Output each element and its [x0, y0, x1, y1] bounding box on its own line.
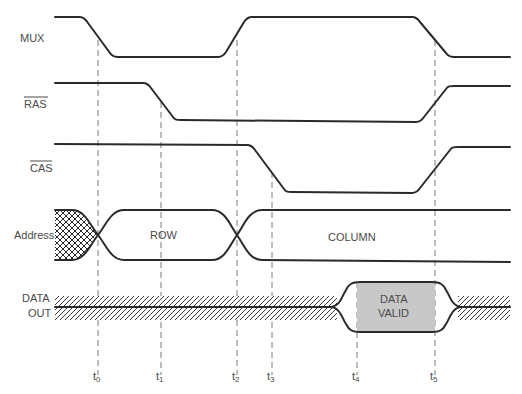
signal-label-mux: MUX: [20, 32, 45, 44]
address-undefined-region: [55, 210, 100, 260]
signal-data-out: DATA OUT DATA VALID: [22, 282, 510, 332]
time-label-t0: t0: [93, 370, 101, 384]
signal-address: Address ROW COLUMN: [14, 210, 510, 262]
waveform-mux: [55, 17, 510, 57]
waveform-ras: [55, 83, 510, 122]
time-label-t3: t3: [267, 370, 275, 384]
signal-label-address: Address: [14, 229, 55, 241]
bus-label-row: ROW: [150, 229, 178, 241]
waveform-address-bottom: [55, 210, 510, 262]
waveform-cas: [55, 144, 510, 193]
waveform-address-top: [55, 210, 510, 260]
data-valid-label-line2: VALID: [378, 307, 409, 319]
time-label-t4: t4: [352, 370, 360, 384]
signal-mux: MUX: [20, 17, 510, 57]
signal-label-cas: CAS: [30, 162, 53, 174]
timing-diagram: MUX RAS CAS Address ROW COLUMN DATA: [0, 0, 522, 394]
bus-label-column: COLUMN: [328, 231, 376, 243]
time-label-t2: t2: [232, 370, 240, 384]
signal-cas: CAS: [30, 144, 510, 193]
time-label-t5: t5: [430, 370, 438, 384]
time-labels: t0 t1 t2 t3 t4 t5: [93, 370, 438, 384]
signal-label-out: OUT: [28, 307, 52, 319]
data-valid-label-line1: DATA: [380, 293, 408, 305]
signal-ras: RAS: [24, 83, 510, 122]
signal-label-ras: RAS: [24, 98, 47, 110]
timing-diagram-canvas: MUX RAS CAS Address ROW COLUMN DATA: [0, 0, 522, 394]
signal-label-data: DATA: [22, 292, 50, 304]
time-label-t1: t1: [156, 370, 164, 384]
